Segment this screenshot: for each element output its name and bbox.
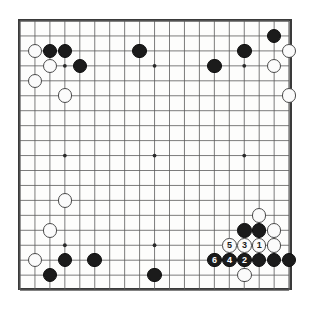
stone-white [282, 88, 297, 103]
stone-black [147, 268, 162, 283]
stone-white [43, 223, 58, 238]
stone-black [237, 44, 252, 59]
stone-black [43, 44, 58, 59]
stone-black [267, 29, 282, 44]
stone-white [28, 253, 43, 268]
stone-black [132, 44, 147, 59]
stone-white [267, 238, 282, 253]
stone-black [252, 223, 267, 238]
stone-black [237, 223, 252, 238]
stone-black [73, 59, 88, 74]
stone-black [43, 268, 58, 283]
stone-white [267, 59, 282, 74]
stone-white [267, 223, 282, 238]
stone-white [237, 268, 252, 283]
stone-white [58, 193, 73, 208]
stone-white [58, 88, 73, 103]
stone-black [267, 253, 282, 268]
stone-move-1: 1 [252, 238, 267, 253]
stone-move-6: 6 [207, 253, 222, 268]
stone-move-5: 5 [222, 238, 237, 253]
stone-black [87, 253, 102, 268]
stone-white [282, 44, 297, 59]
stone-black [252, 253, 267, 268]
stone-move-3: 3 [237, 238, 252, 253]
move-number: 4 [227, 256, 232, 265]
stone-black [58, 44, 73, 59]
move-number: 2 [242, 256, 247, 265]
stone-move-4: 4 [222, 253, 237, 268]
stone-white [28, 74, 43, 89]
move-number: 3 [242, 241, 247, 250]
move-number: 1 [257, 241, 262, 250]
stone-black [207, 59, 222, 74]
stone-white [28, 44, 43, 59]
move-number: 6 [212, 256, 217, 265]
move-number: 5 [227, 241, 232, 250]
go-board-diagram: 123456 [0, 0, 310, 316]
stone-white [43, 59, 58, 74]
stone-black [58, 253, 73, 268]
stone-white [252, 208, 267, 223]
stone-black [282, 253, 297, 268]
stone-layer: 123456 [0, 0, 310, 316]
stone-move-2: 2 [237, 253, 252, 268]
